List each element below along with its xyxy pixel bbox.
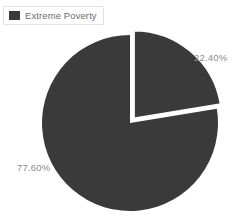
legend-item-label: Extreme Poverty	[25, 11, 97, 21]
pie-slice-extreme-poverty[interactable]	[134, 30, 221, 118]
pie-label-remainder: 77.60%	[17, 163, 50, 173]
chart-legend: Extreme Poverty	[3, 6, 104, 25]
pie-chart-container: Extreme Poverty 22.40% 77.60%	[0, 0, 241, 220]
pie-chart-svg	[0, 0, 241, 220]
legend-item-extreme-poverty[interactable]: Extreme Poverty	[9, 11, 97, 21]
legend-swatch-icon	[9, 11, 20, 20]
pie-label-extreme-poverty: 22.40%	[194, 53, 227, 63]
